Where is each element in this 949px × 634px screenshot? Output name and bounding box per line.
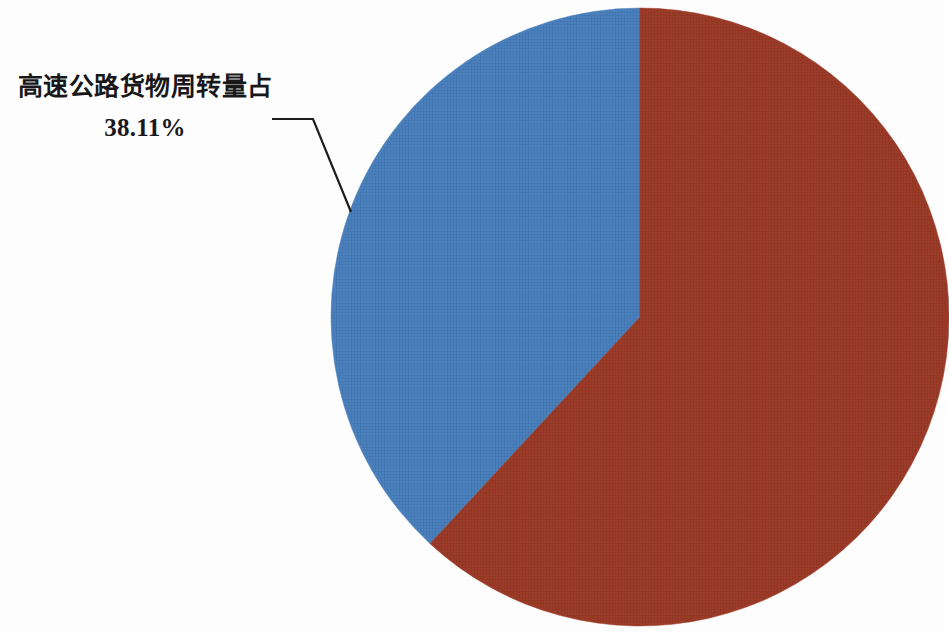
callout-label-text: 高速公路货物周转量占 [0,71,290,104]
callout-value-text: 38.11% [0,112,290,145]
pie-chart-figure: 高速公路货物周转量占 38.11% [0,0,949,634]
pie-slice-callout: 高速公路货物周转量占 38.11% [0,71,290,144]
